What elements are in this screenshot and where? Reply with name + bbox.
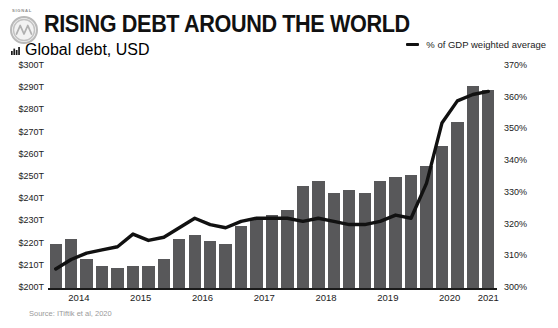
chart-header: SIGNAL RISING DEBT AROUND THE WORLD Glob… bbox=[0, 0, 558, 58]
plot-area bbox=[48, 66, 496, 288]
y-axis-right-tick: 360% bbox=[504, 92, 548, 102]
y-axis-left-tick: $200T bbox=[2, 282, 44, 292]
y-axis-right-tick: 330% bbox=[504, 187, 548, 197]
y-axis-left-tick: $290T bbox=[2, 82, 44, 92]
x-axis-baseline bbox=[48, 288, 497, 290]
x-axis: 20142015201620172018201920202021 bbox=[0, 292, 558, 310]
y-axis-right-tick: 340% bbox=[504, 155, 548, 165]
x-axis-tick: 2020 bbox=[439, 292, 460, 303]
x-axis-tick: 2021 bbox=[478, 292, 499, 303]
x-axis-tick: 2016 bbox=[192, 292, 213, 303]
y-axis-right-tick: 370% bbox=[504, 60, 548, 70]
x-axis-tick: 2018 bbox=[315, 292, 336, 303]
chart-page: SIGNAL RISING DEBT AROUND THE WORLD Glob… bbox=[0, 0, 558, 328]
y-axis-left-tick: $270T bbox=[2, 127, 44, 137]
y-axis-left-tick: $240T bbox=[2, 193, 44, 203]
y-axis-left-tick: $260T bbox=[2, 149, 44, 159]
x-axis-tick: 2019 bbox=[377, 292, 398, 303]
y-axis-right-tick: 300% bbox=[504, 282, 548, 292]
y-axis-right-tick: 310% bbox=[504, 250, 548, 260]
y-axis-left-tick: $220T bbox=[2, 238, 44, 248]
page-title: RISING DEBT AROUND THE WORLD bbox=[44, 11, 410, 38]
y-axis-left: $200T$210T$220T$230T$240T$250T$260T$270T… bbox=[0, 0, 44, 328]
x-axis-tick: 2014 bbox=[68, 292, 89, 303]
y-axis-left-tick: $250T bbox=[2, 171, 44, 181]
y-axis-left-tick: $300T bbox=[2, 60, 44, 70]
line-series-layer bbox=[48, 66, 496, 288]
gdp-weighted-average-line bbox=[56, 91, 489, 269]
y-axis-left-tick: $280T bbox=[2, 104, 44, 114]
y-axis-left-tick: $210T bbox=[2, 260, 44, 270]
legend-swatch-line bbox=[406, 43, 419, 46]
y-axis-right-tick: 320% bbox=[504, 219, 548, 229]
x-axis-tick: 2017 bbox=[254, 292, 275, 303]
y-axis-left-tick: $230T bbox=[2, 215, 44, 225]
y-axis-right-tick: 350% bbox=[504, 123, 548, 133]
source-note: Source: ITiftik et al, 2020 bbox=[29, 309, 112, 318]
y-axis-right: 300%310%320%330%340%350%360%370% bbox=[504, 0, 558, 328]
x-axis-tick: 2015 bbox=[130, 292, 151, 303]
